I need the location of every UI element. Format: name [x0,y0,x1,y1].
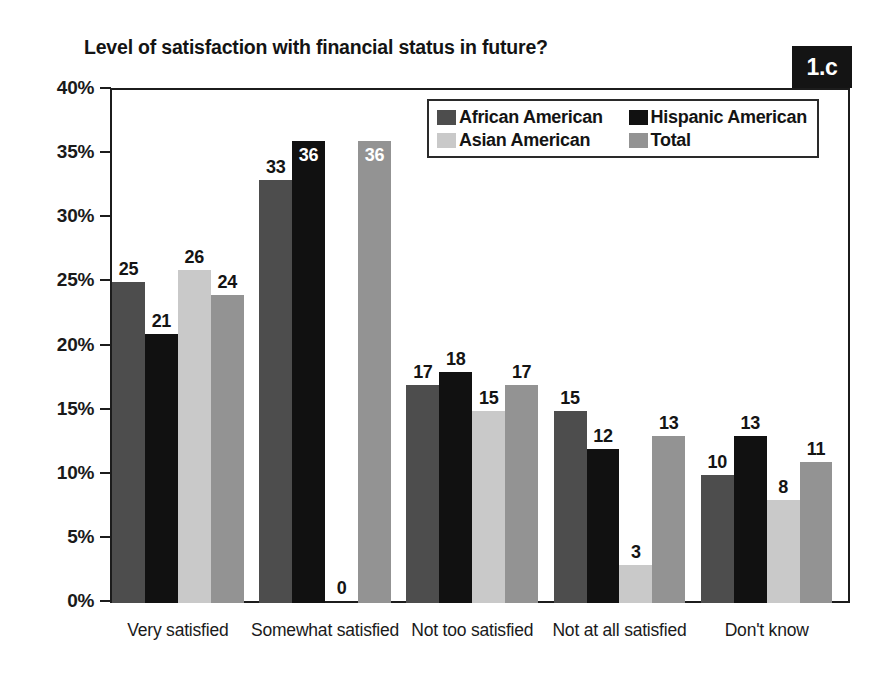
bar-slot: 33 [259,90,292,603]
legend-color-swatch [437,110,456,125]
bar[interactable]: 15 [472,411,505,603]
bar-value-label: 13 [740,414,759,432]
bar-value-label: 15 [560,389,579,407]
bar-group: 1512313 [554,90,686,603]
bar-group: 17181517 [406,90,538,603]
x-axis-tick-label: Not at all satisfied [552,620,686,641]
bar-slot: 13 [734,90,767,603]
legend-color-swatch [629,110,648,125]
legend-color-swatch [629,133,648,148]
x-axis-tick-label: Don't know [725,620,809,641]
bar[interactable]: 26 [178,270,211,603]
chart-legend: African AmericanHispanic AmericanAsian A… [427,99,819,158]
bar-slot: 26 [178,90,211,603]
bar[interactable]: 17 [505,385,538,603]
bar-slot: 25 [112,90,145,603]
bar-slot: 3 [619,90,652,603]
chart-title: Level of satisfaction with financial sta… [84,36,548,59]
x-axis-tick-label: Somewhat satisfied [251,620,399,641]
chart-figure: Level of satisfaction with financial sta… [0,0,890,674]
bar-slot: 8 [767,90,800,603]
legend-label: Hispanic American [651,107,807,128]
bar-value-label: 24 [218,273,237,291]
bar-slot: 21 [145,90,178,603]
bar-value-label: 3 [631,543,641,561]
bar-value-label: 17 [512,363,531,381]
legend-entry[interactable]: African American [437,107,603,128]
bar-slot: 10 [701,90,734,603]
bar-slot: 0 [325,90,358,603]
bar-slot: 13 [652,90,685,603]
bar-slot: 17 [505,90,538,603]
bar[interactable]: 13 [652,436,685,603]
legend-label: Total [651,130,691,151]
bar-slot: 17 [406,90,439,603]
bar[interactable]: 15 [554,411,587,603]
bar-value-label: 21 [152,312,171,330]
bar-slot: 12 [587,90,620,603]
x-axis-tick-label: Very satisfied [127,620,228,641]
bar[interactable]: 13 [734,436,767,603]
panel-label-badge: 1.c [792,46,852,88]
bar-value-label: 8 [778,478,788,496]
legend-label: African American [459,107,603,128]
bar[interactable]: 12 [587,449,620,603]
x-axis-tick-label: Not too satisfied [411,620,533,641]
bar[interactable]: 33 [259,180,292,603]
bar-value-label: 15 [479,389,498,407]
bar-value-label: 36 [365,146,384,164]
bar-slot: 36 [358,90,391,603]
legend-label: Asian American [459,130,590,151]
bar-value-label: 17 [413,363,432,381]
bar-group: 1013811 [701,90,833,603]
bar-slot: 15 [554,90,587,603]
bar[interactable]: 24 [211,295,244,603]
bar-value-label: 25 [119,260,138,278]
bar[interactable]: 8 [767,500,800,603]
y-axis-tick-marks [0,88,112,603]
bar[interactable]: 36 [292,141,325,603]
x-axis-tick-labels: Very satisfiedSomewhat satisfiedNot too … [112,612,848,652]
bar-value-label: 33 [266,158,285,176]
bar-value-label: 10 [708,453,727,471]
bar[interactable]: 18 [439,372,472,603]
bar-value-label: 18 [446,350,465,368]
bar[interactable]: 11 [800,462,833,603]
bar[interactable]: 21 [145,334,178,603]
bar-value-label: 13 [659,414,678,432]
legend-entry[interactable]: Hispanic American [629,107,807,128]
legend-color-swatch [437,133,456,148]
bar[interactable]: 17 [406,385,439,603]
bar-group: 25212624 [112,90,244,603]
bar-value-label: 12 [593,427,612,445]
bar[interactable]: 3 [619,565,652,603]
bar-slot: 36 [292,90,325,603]
plot-area: 2521262433360361718151715123131013811 [112,90,848,603]
legend-entry[interactable]: Asian American [437,130,603,151]
bar-slot: 24 [211,90,244,603]
bar[interactable]: 25 [112,282,145,603]
bar[interactable]: 36 [358,141,391,603]
bar-slot: 15 [472,90,505,603]
bar-group: 3336036 [259,90,391,603]
bar-value-label: 36 [299,146,318,164]
bar-value-label: 0 [337,579,347,597]
bar-value-label: 11 [807,440,825,458]
bar[interactable]: 10 [701,475,734,603]
legend-entry[interactable]: Total [629,130,807,151]
bar-value-label: 26 [185,248,204,266]
bar-slot: 11 [800,90,833,603]
bar-slot: 18 [439,90,472,603]
